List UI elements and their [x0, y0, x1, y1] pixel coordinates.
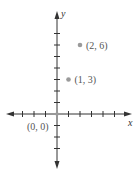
y-arrow-up-icon	[55, 11, 60, 19]
origin-dot	[55, 112, 59, 116]
data-point	[66, 77, 71, 82]
axes	[6, 11, 132, 169]
x-arrow-left-icon	[6, 112, 14, 117]
y-arrow-down-icon	[55, 161, 60, 169]
coordinate-plane: (1, 3)(2, 6) x y (0, 0)	[0, 0, 138, 182]
data-point-label: (1, 3)	[75, 74, 97, 86]
data-points: (1, 3)(2, 6)	[66, 40, 107, 87]
x-axis-label: x	[127, 117, 133, 128]
x-arrow-right-icon	[124, 112, 132, 117]
origin-label: (0, 0)	[27, 121, 49, 133]
data-point	[78, 43, 83, 48]
y-axis-label: y	[60, 8, 66, 19]
data-point-label: (2, 6)	[86, 40, 108, 52]
